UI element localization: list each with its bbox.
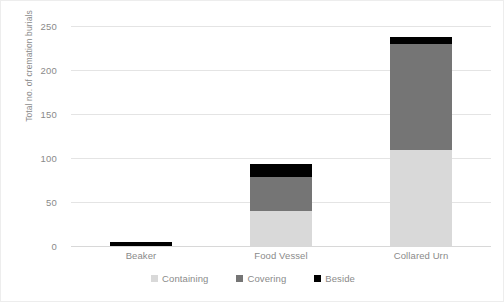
y-axis-tick-label: 150 bbox=[41, 109, 57, 120]
legend-swatch-icon bbox=[151, 275, 158, 282]
bar-segment-beside[interactable] bbox=[250, 164, 312, 177]
stacked-bar-chart: Total no. of cremation burials 050100150… bbox=[0, 0, 504, 302]
legend-item[interactable]: Beside bbox=[314, 273, 355, 284]
y-axis-tick-label: 50 bbox=[46, 197, 57, 208]
x-axis-tick-label: Collared Urn bbox=[394, 250, 449, 261]
y-axis-tick-label: 250 bbox=[41, 21, 57, 32]
bar-segment-covering[interactable] bbox=[250, 177, 312, 210]
bar-group[interactable] bbox=[390, 37, 452, 246]
legend-item[interactable]: Covering bbox=[236, 273, 286, 284]
gridline bbox=[71, 26, 491, 27]
legend-label: Containing bbox=[162, 273, 208, 284]
legend-swatch-icon bbox=[236, 275, 243, 282]
legend-swatch-icon bbox=[314, 275, 321, 282]
bar-group[interactable] bbox=[250, 164, 312, 246]
chart-legend: ContainingCoveringBeside bbox=[1, 273, 504, 284]
gridline bbox=[71, 246, 491, 247]
bar-segment-containing[interactable] bbox=[250, 211, 312, 246]
legend-label: Covering bbox=[247, 273, 286, 284]
y-axis-tick-label: 100 bbox=[41, 153, 57, 164]
x-axis-tick-label: Food Vessel bbox=[254, 250, 307, 261]
x-axis-tick-label: Beaker bbox=[126, 250, 157, 261]
y-axis-tick-label: 200 bbox=[41, 65, 57, 76]
bar-segment-covering[interactable] bbox=[390, 44, 452, 150]
bar-segment-beside[interactable] bbox=[110, 242, 172, 246]
bar-segment-containing[interactable] bbox=[390, 150, 452, 246]
legend-label: Beside bbox=[325, 273, 355, 284]
y-axis-tick-label: 0 bbox=[52, 241, 57, 252]
bar-group[interactable] bbox=[110, 242, 172, 246]
plot-area bbox=[71, 26, 491, 246]
y-axis-tick-labels: 050100150200250 bbox=[1, 26, 63, 246]
x-axis-tick-labels: BeakerFood VesselCollared Urn bbox=[71, 250, 491, 268]
legend-item[interactable]: Containing bbox=[151, 273, 208, 284]
